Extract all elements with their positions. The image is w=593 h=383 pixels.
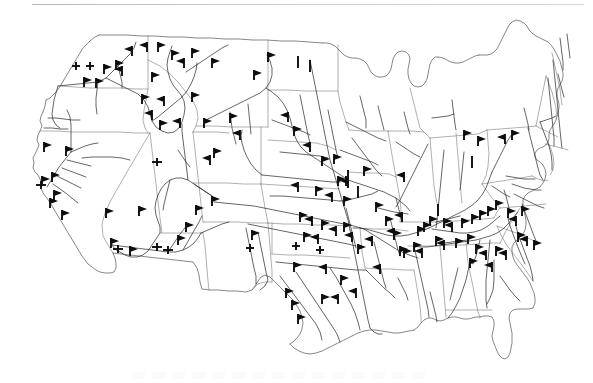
dam-marker [468,234,476,244]
river-missouri-dakota [266,88,348,180]
state-border-ny-east [536,76,546,126]
river-san-joaquin [47,152,71,187]
state-border-az-nm [203,233,209,290]
dam-marker [394,212,402,222]
river-black-warrior [450,268,458,300]
state-border-nv-ca [102,133,150,253]
dam-marker [348,288,356,298]
dam-marker [186,222,194,232]
dam-marker [280,112,288,122]
dam-marker [364,236,372,246]
river-osage [378,208,408,214]
river-arkansas-upper [214,202,364,229]
state-border-nm-tx [268,223,272,282]
dam-marker [152,243,162,251]
dam-marker [386,228,394,238]
dam-marker [144,110,152,120]
dam-marker [330,294,338,304]
dam-marker [158,42,166,52]
river-wabash [436,150,444,228]
river-rio-grande [258,232,268,290]
state-border-al-ga [466,242,480,317]
river-green [182,124,188,180]
pacific-nw-coast-outline [46,35,99,100]
dam-marker [497,134,505,144]
dam-marker [176,58,184,68]
dam-marker [341,275,349,285]
us-map-svg [0,0,593,383]
dam-marker [212,58,220,68]
river-niobrara [280,152,328,158]
river-mohawk [540,116,556,122]
river-big-sioux [328,110,338,158]
dam-marker [404,248,412,258]
dam-marker [470,258,478,268]
state-border-ia-mo [349,172,396,177]
river-kanawha [492,186,510,197]
dam-marker [254,70,262,80]
southern-border-outline [113,253,303,344]
state-border-in-oh [456,133,462,203]
dam-marker [130,246,138,256]
dam-marker [396,172,404,182]
florida-outline [480,308,533,359]
river-james [512,184,541,190]
dam-marker [172,50,180,60]
river-bear [178,150,190,167]
dam-marker [292,242,300,250]
river-penobscot [567,34,570,58]
dam-marker [202,155,210,165]
dam-marker [290,182,298,192]
river-canadian [248,224,356,246]
dam-marker [204,118,212,128]
river-roanoke [514,194,544,208]
river-ohio-upper [429,172,492,228]
dam-marker [324,192,332,202]
river-susquehanna [528,128,543,180]
river-fox [404,112,410,134]
river-saginaw [452,100,456,130]
state-border-ok-tx [272,254,350,258]
dam-marker [334,154,342,164]
dam-marker [160,120,168,130]
dam-marker [86,62,94,70]
river-pecos [246,228,256,284]
dam-marker [44,142,52,152]
river-snake [106,46,185,133]
caption-ghost-artifact [132,372,432,379]
state-border-ut-nv [150,133,162,233]
dam-marker [302,142,310,152]
state-border-co-east [261,184,268,223]
dam-marker [300,212,308,222]
state-border-nd-sd [268,90,338,91]
dam-marker [62,210,70,220]
state-border-nc-sc [497,226,534,241]
river-sevier [163,180,170,210]
dam-marker [54,190,62,200]
dam-marker [456,238,464,248]
dam-marker [344,196,352,206]
river-connecticut [553,60,562,148]
dam-marker [192,92,200,102]
state-border-ks-ok [268,223,346,226]
dam-marker [124,46,132,56]
state-border-il-in [430,138,438,208]
northeast-coast-outline [479,20,563,112]
map-figure [0,0,593,383]
texas-gulf-outline [290,330,414,354]
northern-border-outline [99,35,323,43]
river-north-platte [241,130,262,175]
dam-marker [36,181,46,189]
river-sierra-1 [67,160,91,166]
river-red-la [366,270,395,298]
river-kennebec [560,38,563,70]
dam-marker [192,48,200,58]
river-great-miami [460,152,464,190]
state-border-ia-east [388,131,396,177]
state-border-wy-south [193,183,261,184]
river-network-layer [44,34,570,342]
dam-marker [310,234,318,244]
river-alabama [448,262,470,318]
river-grand-mi [432,114,454,118]
dam-marker [519,236,527,246]
